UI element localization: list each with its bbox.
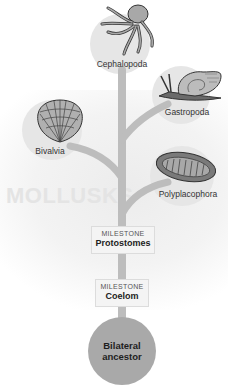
bilateral-ancestor-node: Bilateral ancestor	[88, 317, 156, 385]
root-label-line2: ancestor	[102, 351, 142, 362]
milestone-protostomes: MILESTONE Protostomes	[91, 226, 155, 254]
gastropoda-label: Gastropoda	[162, 107, 212, 117]
cephalopoda-label: Cephalopoda	[96, 59, 148, 69]
bivalvia-label: Bivalvia	[30, 146, 70, 156]
snail-icon	[155, 66, 225, 106]
scallop-shell-icon	[34, 98, 86, 144]
octopus-icon	[98, 2, 158, 58]
milestone-title: Protostomes	[92, 238, 154, 249]
polyplacophora-label: Polyplacophora	[152, 189, 224, 199]
milestone-title: Coelom	[96, 291, 148, 302]
milestone-kicker: MILESTONE	[96, 283, 148, 291]
chiton-icon	[154, 150, 218, 184]
root-label-line1: Bilateral	[103, 340, 141, 351]
milestone-kicker: MILESTONE	[92, 230, 154, 238]
milestone-coelom: MILESTONE Coelom	[95, 279, 149, 307]
